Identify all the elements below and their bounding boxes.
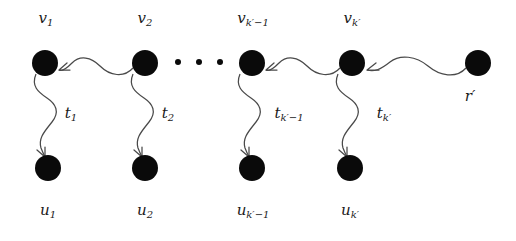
label-edge-t1: t1 [65, 106, 77, 121]
node-vkm1 [239, 50, 265, 76]
horizontal-edge-vk-to-vkm1 [266, 58, 340, 75]
label-edge-t2: t2 [162, 106, 174, 121]
node-u2 [132, 155, 158, 181]
label-edge-tk: tk′ [377, 106, 391, 121]
vertical-edge-v1-to-u1 [34, 74, 56, 157]
vertical-edge-v2-to-u2 [131, 74, 153, 157]
label-node-uk: uk′ [341, 203, 359, 218]
ellipsis-dot-2 [196, 59, 202, 65]
node-v2 [132, 50, 158, 76]
horizontal-edge-v2-to-v1 [59, 58, 133, 75]
vertical-edge-vk-to-uk [336, 74, 358, 157]
ellipsis-dot-1 [175, 59, 181, 65]
label-node-u1: u1 [40, 203, 56, 218]
label-node-ukm1: uk′−1 [237, 203, 270, 218]
horizontal-edge-rprime-to-vk [367, 57, 466, 75]
label-node-v1: v1 [39, 11, 54, 26]
node-vk [339, 50, 365, 76]
label-node-u2: u2 [137, 203, 153, 218]
node-rprime [465, 50, 491, 76]
node-v1 [32, 50, 58, 76]
ellipsis-dot-3 [217, 59, 223, 65]
node-ukm1 [239, 155, 265, 181]
label-node-vk: vk′ [344, 11, 361, 26]
vertical-edge-vkm1-to-ukm1 [238, 74, 260, 157]
label-node-vkm1: vk′−1 [237, 11, 269, 26]
label-edge-tkm1: tk′−1 [274, 106, 303, 121]
node-u1 [35, 155, 61, 181]
label-node-v2: v2 [138, 11, 153, 26]
label-node-rprime: r′ [465, 89, 476, 104]
graph-diagram: v1 v2 vk′−1 vk′ r′ u1 u2 uk′−1 uk′ t1 t2… [0, 0, 516, 241]
node-uk [337, 155, 363, 181]
